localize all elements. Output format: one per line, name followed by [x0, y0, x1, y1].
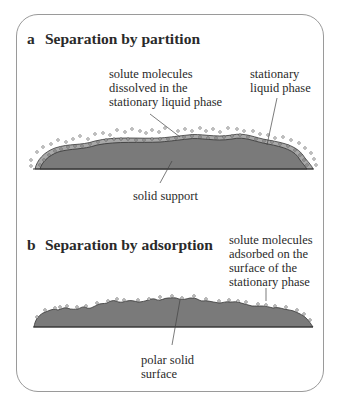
- polar-solid-surface: [34, 298, 313, 327]
- diagram-art: [0, 0, 340, 408]
- leader-solute-dissolved: [150, 114, 180, 137]
